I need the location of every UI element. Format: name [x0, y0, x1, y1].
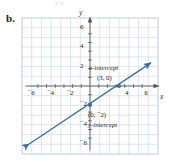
x-tick-label: ¯6 — [28, 90, 35, 97]
cropped-header-text: y x — [55, 0, 175, 9]
y-tick-label: ¯2 — [80, 101, 87, 108]
x-intercept-annotation: x-intercept — [89, 64, 118, 72]
x-tick-label: 4 — [125, 90, 129, 97]
y-tick-label: ¯4 — [80, 121, 87, 128]
figure-panel: y x b. ¯6¯4¯246642¯2¯4¯6 x-in — [0, 0, 175, 162]
plotted-line — [22, 18, 158, 154]
y-tick-label: 4 — [80, 43, 84, 50]
y-tick-label: 6 — [80, 24, 84, 31]
y-intercept-point-text: (0, ¯2) — [88, 111, 106, 119]
coordinate-plane: ¯6¯4¯246642¯2¯4¯6 — [22, 18, 158, 154]
x-intercept-label: x-intercept — [89, 64, 118, 71]
part-label: b. — [6, 12, 15, 24]
x-tick-label: ¯4 — [47, 90, 54, 97]
x-tick-label: ¯2 — [67, 90, 74, 97]
y-tick-label: ¯6 — [80, 140, 87, 147]
x-tick-label: 6 — [144, 90, 148, 97]
x-intercept-point-text: (3, 0) — [97, 74, 112, 82]
x-axis-name: x — [160, 92, 163, 101]
y-axis-name: y — [79, 8, 82, 17]
y-intercept-annotation: y-intercept — [88, 121, 117, 129]
y-tick-label: 2 — [80, 63, 84, 70]
y-intercept-label: y-intercept — [88, 121, 117, 128]
